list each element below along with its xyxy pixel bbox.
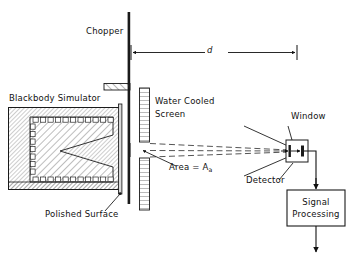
chopper-label: Chopper — [86, 27, 123, 37]
signal-processing-box — [287, 190, 345, 226]
signal-processing-label-line2: Processing — [287, 210, 345, 220]
water-cooled-screen-label-line1: Water Cooled — [155, 97, 215, 107]
polished-surface-label: Polished Surface — [45, 210, 118, 220]
chopper-blade — [104, 84, 130, 91]
chopper-shaft — [128, 12, 131, 204]
detector-label: Detector — [246, 176, 285, 186]
water-cooled-screen-upper — [140, 88, 150, 142]
polished-surface-bar — [119, 104, 122, 194]
radiation-beam-dashed — [150, 144, 289, 158]
window-leader-line — [288, 126, 292, 140]
signal-processing-label-line1: Signal — [287, 198, 345, 208]
water-cooled-screen-lower — [140, 158, 150, 210]
distance-label: d — [207, 46, 213, 56]
diagram-vector-layer — [0, 0, 351, 259]
aperture-area-text: Area = A — [169, 162, 209, 172]
aperture-stop-marker — [129, 143, 131, 157]
aperture-area-subscript: a — [209, 166, 213, 173]
window-label: Window — [291, 112, 326, 122]
water-cooled-screen-label-line2: Screen — [155, 110, 185, 120]
blackbody-simulator-label: Blackbody Simulator — [9, 94, 101, 104]
aperture-area-label: Area = Aa — [169, 163, 213, 173]
figure-canvas: Chopper d Blackbody Simulator Water Cool… — [0, 0, 351, 259]
dimension-line-d — [131, 45, 297, 60]
